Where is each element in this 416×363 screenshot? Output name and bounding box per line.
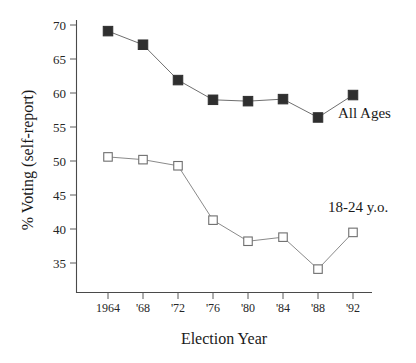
x-tick-label: '76 <box>206 301 220 315</box>
y-tick-label: 60 <box>53 86 66 101</box>
marker-18-24 <box>209 216 218 225</box>
y-axis-title: % Voting (self-report) <box>19 90 37 231</box>
marker-18-24 <box>349 228 358 237</box>
x-tick-label: '72 <box>171 301 185 315</box>
marker-18-24 <box>139 155 148 164</box>
marker-all-ages <box>348 90 358 100</box>
y-tick-label: 50 <box>53 154 66 169</box>
marker-all-ages <box>208 95 218 105</box>
marker-18-24 <box>279 233 288 242</box>
marker-18-24 <box>244 237 253 246</box>
chart-figure: 7065605550454035 1964'68'72'76'80'84'88'… <box>0 0 416 363</box>
marker-18-24 <box>314 265 323 274</box>
marker-all-ages <box>313 113 323 123</box>
marker-18-24 <box>104 153 113 162</box>
series-label-all-ages: All Ages <box>338 105 391 121</box>
x-tick-label: '92 <box>346 301 360 315</box>
x-axis-tick-labels: 1964'68'72'76'80'84'88'92 <box>96 301 360 315</box>
x-tick-label: '68 <box>136 301 150 315</box>
marker-all-ages <box>243 96 253 106</box>
y-axis-tick-labels: 7065605550454035 <box>53 18 66 271</box>
y-tick-label: 40 <box>53 222 66 237</box>
x-tick-label: 1964 <box>96 301 120 315</box>
x-axis-title: Election Year <box>181 330 268 347</box>
x-tick-label: '84 <box>276 301 290 315</box>
marker-all-ages <box>278 94 288 104</box>
series-markers-18-24 <box>104 153 358 274</box>
y-tick-label: 35 <box>53 256 66 271</box>
x-axis-ticks <box>108 293 353 300</box>
marker-all-ages <box>138 40 148 50</box>
marker-all-ages <box>173 75 183 85</box>
voting-turnout-line-chart: 7065605550454035 1964'68'72'76'80'84'88'… <box>0 0 416 363</box>
y-tick-label: 45 <box>53 188 66 203</box>
marker-18-24 <box>174 162 183 171</box>
series-markers-all-ages <box>103 26 358 122</box>
y-tick-label: 65 <box>53 52 66 67</box>
y-tick-label: 70 <box>53 18 66 33</box>
series-label-18-24: 18-24 y.o. <box>328 199 388 215</box>
x-tick-label: '88 <box>311 301 325 315</box>
x-tick-label: '80 <box>241 301 255 315</box>
marker-all-ages <box>103 26 113 36</box>
y-axis-ticks <box>70 25 77 263</box>
series-line-18-24 <box>108 157 353 269</box>
y-tick-label: 55 <box>53 120 66 135</box>
axis-lines <box>77 20 373 293</box>
